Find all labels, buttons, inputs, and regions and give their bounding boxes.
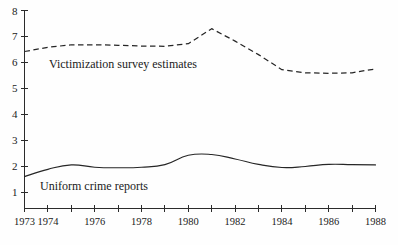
- victimization-series-label: Victimization survey estimates: [49, 57, 197, 71]
- y-axis-tick-labels: 12345678: [12, 5, 18, 199]
- x-tick-label: 1984: [271, 216, 293, 227]
- x-tick-label: 1978: [131, 216, 152, 227]
- x-tick-label: 1980: [178, 216, 199, 227]
- y-tick-label: 3: [12, 134, 18, 146]
- y-tick-label: 6: [12, 56, 18, 68]
- x-tick-label: 1976: [84, 216, 105, 227]
- x-tick-label: 1973: [14, 216, 35, 227]
- y-tick-label: 2: [12, 160, 18, 172]
- x-tick-label: 1986: [318, 216, 339, 227]
- data-series-group: [25, 29, 376, 177]
- y-tick-label: 7: [12, 30, 18, 42]
- x-axis-tick-labels: 197319741976197819801982198419861988: [14, 216, 386, 227]
- y-tick-label: 5: [12, 82, 18, 94]
- uniform-crime-series-label: Uniform crime reports: [40, 179, 148, 193]
- crime-rate-line-chart: 12345678 1973197419761978198019821984198…: [0, 0, 398, 245]
- uniform-crime-reports-line: [25, 154, 376, 177]
- x-tick-label: 1988: [365, 216, 386, 227]
- x-tick-label: 1982: [225, 216, 246, 227]
- y-tick-label: 8: [12, 5, 18, 17]
- x-tick-label: 1974: [37, 216, 59, 227]
- chart-canvas: 12345678 1973197419761978198019821984198…: [0, 0, 398, 245]
- y-tick-label: 4: [12, 108, 18, 120]
- y-tick-label: 1: [12, 186, 18, 198]
